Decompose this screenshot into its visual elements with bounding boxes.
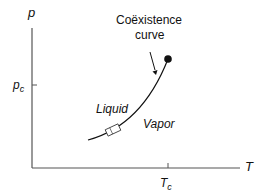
liquid-region-label: Liquid: [96, 103, 128, 115]
critical-point: [164, 55, 172, 63]
y-axis-label: p: [28, 7, 35, 19]
sample-box-icon: [105, 124, 121, 136]
x-axis-label: T: [245, 161, 253, 173]
annotation-line2: curve: [135, 29, 164, 41]
arrow-head-icon: [153, 70, 158, 75]
pc-label: pc: [13, 79, 24, 95]
vapor-region-label: Vapor: [143, 118, 175, 130]
phase-diagram-canvas: [0, 0, 265, 195]
tc-label: Tc: [160, 177, 172, 193]
arrow-shaft: [150, 52, 155, 70]
annotation-line1: Coëxistence: [116, 14, 182, 26]
